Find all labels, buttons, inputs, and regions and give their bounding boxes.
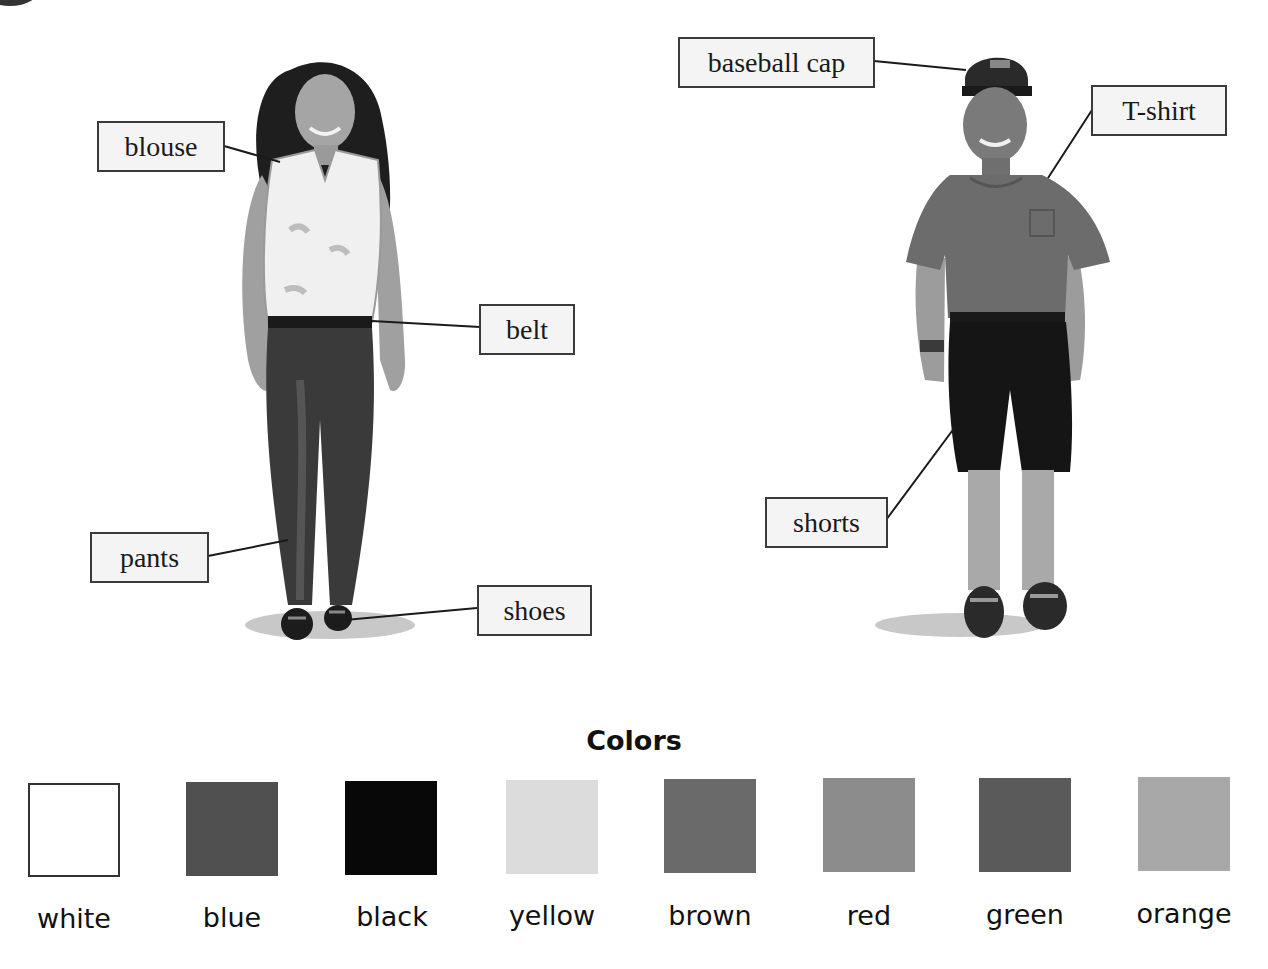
swatch-label-brown: brown — [630, 900, 790, 931]
swatch-orange — [1138, 777, 1230, 871]
swatch-label-white: white — [0, 903, 154, 934]
swatch-label-red: red — [789, 900, 949, 931]
swatch-white — [28, 783, 120, 877]
swatch-black — [345, 781, 437, 875]
label-pants: pants — [90, 532, 209, 583]
swatch-label-blue: blue — [152, 902, 312, 933]
swatch-green — [979, 778, 1071, 872]
label-baseball-cap: baseball cap — [678, 37, 875, 88]
swatch-brown — [664, 779, 756, 873]
swatch-yellow — [506, 780, 598, 874]
swatch-label-black: black — [312, 901, 472, 932]
label-blouse: blouse — [97, 121, 225, 172]
swatch-label-orange: orange — [1104, 898, 1264, 929]
woman-figure — [242, 62, 415, 640]
man-figure — [875, 58, 1110, 638]
label-shorts: shorts — [765, 497, 888, 548]
label-t-shirt: T-shirt — [1091, 85, 1227, 136]
colors-heading: Colors — [0, 725, 1268, 756]
label-belt: belt — [479, 304, 575, 355]
swatch-blue — [186, 782, 278, 876]
swatch-label-yellow: yellow — [472, 900, 632, 931]
swatch-red — [823, 778, 915, 872]
swatch-label-green: green — [945, 899, 1105, 930]
label-shoes: shoes — [477, 585, 592, 636]
